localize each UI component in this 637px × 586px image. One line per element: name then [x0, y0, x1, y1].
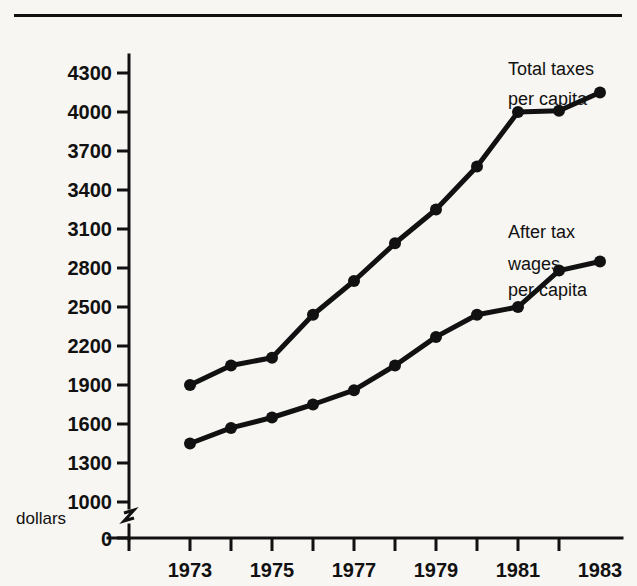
y-tick-label-1900: 1900: [68, 374, 113, 396]
data-point-marker[interactable]: [389, 360, 401, 372]
data-point-marker[interactable]: [471, 309, 483, 321]
data-point-marker[interactable]: [184, 379, 196, 391]
y-tick-label-3700: 3700: [68, 140, 113, 162]
y-tick-label-2200: 2200: [68, 335, 113, 357]
annotation-after-tax-line2: wages: [507, 254, 560, 274]
data-point-marker[interactable]: [594, 87, 606, 99]
data-point-marker[interactable]: [348, 275, 360, 287]
x-tick-label-1983: 1983: [578, 559, 623, 581]
data-point-marker[interactable]: [184, 438, 196, 450]
data-point-marker[interactable]: [225, 422, 237, 434]
x-tick-marks: [129, 538, 559, 551]
annotation-total-taxes-line2: per capita: [508, 89, 588, 109]
series-annotation-after-tax-wages: After tax wages per capita: [507, 222, 588, 300]
series-annotation-total-taxes: Total taxes per capita: [508, 59, 594, 109]
data-point-marker[interactable]: [430, 331, 442, 343]
x-tick-label-1981: 1981: [496, 559, 541, 581]
y-tick-label-4000: 4000: [68, 101, 113, 123]
data-point-marker[interactable]: [266, 352, 278, 364]
y-tick-label-4300: 4300: [68, 62, 113, 84]
y-tick-label-1000: 1000: [68, 491, 113, 513]
data-point-marker[interactable]: [307, 309, 319, 321]
annotation-after-tax-line1: After tax: [508, 222, 575, 242]
data-point-marker[interactable]: [594, 256, 606, 268]
annotation-total-taxes-line1: Total taxes: [508, 59, 594, 79]
chart-plot-area: 4300 4000 3700 3400 3100 2800 2500 2200 …: [0, 0, 637, 586]
data-point-marker[interactable]: [348, 384, 360, 396]
annotation-after-tax-line3: per capita: [508, 280, 588, 300]
x-tick-label-1973: 1973: [168, 559, 213, 581]
y-tick-label-1600: 1600: [68, 413, 113, 435]
data-point-marker[interactable]: [512, 301, 524, 313]
y-axis-break-icon: [124, 510, 134, 521]
x-tick-label-1979: 1979: [414, 559, 459, 581]
chart-figure: 4300 4000 3700 3400 3100 2800 2500 2200 …: [0, 0, 637, 586]
y-tick-label-2500: 2500: [68, 296, 113, 318]
data-point-marker[interactable]: [471, 161, 483, 173]
y-tick-label-3400: 3400: [68, 179, 113, 201]
y-tick-label-1300: 1300: [68, 452, 113, 474]
x-tick-label-1977: 1977: [332, 559, 377, 581]
y-tick-label-2800: 2800: [68, 257, 113, 279]
y-axis-origin-label: 0: [101, 528, 112, 550]
y-axis-caption: dollars: [16, 509, 66, 528]
data-point-marker[interactable]: [430, 204, 442, 216]
data-point-marker[interactable]: [266, 412, 278, 424]
y-tick-marks: [117, 73, 129, 538]
x-tick-label-1975: 1975: [250, 559, 295, 581]
y-tick-label-3100: 3100: [68, 218, 113, 240]
data-point-marker[interactable]: [307, 399, 319, 411]
data-point-marker[interactable]: [225, 360, 237, 372]
data-point-marker[interactable]: [389, 237, 401, 249]
